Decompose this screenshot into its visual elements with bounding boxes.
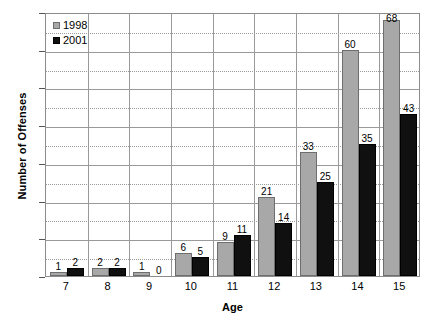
bar-value-label-1998-age-15: 68 bbox=[378, 14, 405, 24]
bar-2001-age-8 bbox=[109, 268, 126, 276]
gridline-major bbox=[46, 89, 419, 90]
bar-value-label-2001-age-9: 0 bbox=[145, 266, 172, 276]
gridline-major bbox=[46, 52, 419, 53]
bar-value-label-2001-age-14: 35 bbox=[354, 134, 381, 144]
legend-label: 1998 bbox=[63, 18, 87, 33]
x-tick-label-12: 12 bbox=[253, 281, 295, 292]
bar-2001-age-14 bbox=[359, 144, 376, 276]
black-square-swatch bbox=[53, 37, 60, 44]
bar-value-label-2001-age-13: 25 bbox=[312, 172, 339, 182]
bar-1998-age-13 bbox=[300, 152, 317, 276]
gridline-major bbox=[46, 127, 419, 128]
gridline-category bbox=[171, 14, 172, 276]
x-tick-label-10: 10 bbox=[170, 281, 212, 292]
x-tick-label-7: 7 bbox=[45, 281, 87, 292]
bar-1998-age-14 bbox=[342, 50, 359, 276]
y-axis-title: Number of Offenses bbox=[16, 66, 28, 226]
gridline-category bbox=[379, 14, 380, 276]
plot-area: 122210659112114332560356843 bbox=[45, 13, 420, 277]
bar-value-label-2001-age-8: 2 bbox=[104, 258, 131, 268]
x-tick-label-13: 13 bbox=[295, 281, 337, 292]
gridline-category bbox=[254, 14, 255, 276]
bar-2001-age-11 bbox=[234, 235, 251, 276]
x-tick-label-9: 9 bbox=[128, 281, 170, 292]
bar-value-label-2001-age-10: 5 bbox=[187, 247, 214, 257]
plot-inner: 122210659112114332560356843 bbox=[46, 14, 419, 276]
bar-value-label-1998-age-14: 60 bbox=[337, 40, 364, 50]
legend: 19982001 bbox=[53, 18, 87, 48]
gridline-category bbox=[338, 14, 339, 276]
gridline-minor bbox=[46, 108, 419, 109]
bar-1998-age-15 bbox=[383, 20, 400, 276]
bar-value-label-2001-age-12: 14 bbox=[270, 213, 297, 223]
gray-square-swatch bbox=[53, 22, 60, 29]
legend-label: 2001 bbox=[63, 33, 87, 48]
legend-item-2001: 2001 bbox=[53, 33, 87, 48]
x-axis-title: Age bbox=[45, 301, 420, 313]
legend-item-1998: 1998 bbox=[53, 18, 87, 33]
bar-value-label-2001-age-11: 11 bbox=[229, 225, 256, 235]
x-tick-label-14: 14 bbox=[337, 281, 379, 292]
bar-value-label-2001-age-15: 43 bbox=[395, 104, 422, 114]
bar-2001-age-10 bbox=[192, 257, 209, 276]
bar-1998-age-11 bbox=[217, 242, 234, 276]
bar-value-label-1998-age-12: 21 bbox=[253, 187, 280, 197]
bar-1998-age-12 bbox=[258, 197, 275, 276]
bar-2001-age-7 bbox=[67, 268, 84, 276]
bar-chart: Number of Offenses 010203040506070 12221… bbox=[0, 0, 432, 322]
bar-2001-age-15 bbox=[400, 114, 417, 276]
gridline-minor bbox=[46, 33, 419, 34]
bar-2001-age-12 bbox=[275, 223, 292, 276]
x-tick-label-15: 15 bbox=[378, 281, 420, 292]
gridline-minor bbox=[46, 71, 419, 72]
bar-1998-age-7 bbox=[50, 272, 67, 276]
x-tick-label-11: 11 bbox=[212, 281, 254, 292]
bar-2001-age-13 bbox=[317, 182, 334, 276]
gridline-category bbox=[129, 14, 130, 276]
bar-value-label-2001-age-7: 2 bbox=[62, 258, 89, 268]
bar-1998-age-8 bbox=[92, 268, 109, 276]
y-tick-mark bbox=[39, 277, 45, 278]
x-tick-label-8: 8 bbox=[87, 281, 129, 292]
gridline-category bbox=[88, 14, 89, 276]
bar-value-label-1998-age-13: 33 bbox=[295, 142, 322, 152]
